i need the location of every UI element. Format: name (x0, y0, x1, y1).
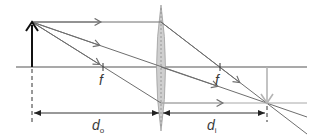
diagram-svg (0, 0, 325, 137)
dimension-do (34, 110, 159, 116)
ray-parallel (32, 22, 307, 134)
focal-label-right: f (215, 73, 219, 87)
object-distance-subscript: o (100, 126, 104, 135)
image-arrow (261, 67, 273, 103)
object-arrow (26, 22, 38, 67)
object-distance-label: do (92, 118, 104, 135)
ray-focal (32, 22, 307, 103)
object-distance-symbol: d (92, 117, 100, 133)
image-distance-subscript: i (215, 126, 217, 135)
image-distance-symbol: d (207, 117, 215, 133)
dimension-di (163, 110, 265, 116)
lens-ray-diagram: f f do di (0, 0, 325, 137)
focal-label-left: f (99, 73, 103, 87)
image-distance-label: di (207, 118, 217, 135)
